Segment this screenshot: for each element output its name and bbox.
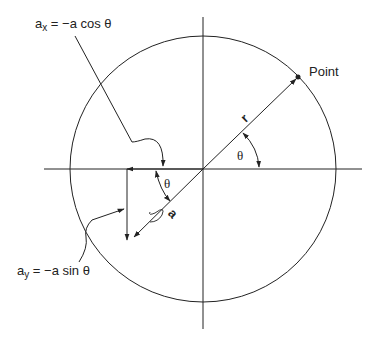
point-label: Point xyxy=(309,64,339,79)
radius-label: r xyxy=(237,111,251,125)
acceleration-label: a xyxy=(165,206,181,222)
circular-motion-diagram: ax = −a cos θ ay = −a sin θ Point r a θ … xyxy=(0,0,373,343)
radius-vector-arrow xyxy=(203,79,296,169)
theta-upper-label: θ xyxy=(237,148,243,163)
ax-equation-label: ax = −a cos θ xyxy=(35,16,112,33)
point-dot xyxy=(296,75,301,80)
ay-equation-label: ay = −a sin θ xyxy=(17,263,90,280)
ay-leader-line xyxy=(79,209,124,262)
theta-arc-upper xyxy=(243,133,259,167)
theta-lower-label: θ xyxy=(164,176,170,191)
